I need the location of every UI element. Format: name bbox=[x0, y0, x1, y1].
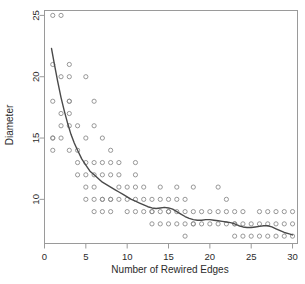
figure-background bbox=[0, 0, 305, 284]
y-tick-label-15: 15 bbox=[30, 133, 41, 144]
plot-canvas: 051015202530 10152025 Number of Rewired … bbox=[0, 0, 305, 284]
x-tick-label-5: 5 bbox=[83, 251, 88, 262]
y-tick-label-20: 20 bbox=[30, 71, 41, 82]
scatter-plot-figure: 051015202530 10152025 Number of Rewired … bbox=[0, 0, 305, 284]
x-tick-label-30: 30 bbox=[287, 251, 298, 262]
y-axis-title: Diameter bbox=[4, 104, 15, 145]
x-tick-label-10: 10 bbox=[122, 251, 133, 262]
x-tick-label-15: 15 bbox=[163, 251, 174, 262]
x-tick-label-20: 20 bbox=[205, 251, 216, 262]
x-tick-label-0: 0 bbox=[42, 251, 47, 262]
x-tick-label-25: 25 bbox=[246, 251, 257, 262]
y-tick-label-25: 25 bbox=[30, 10, 41, 21]
y-tick-label-10: 10 bbox=[30, 194, 41, 205]
x-axis-title: Number of Rewired Edges bbox=[111, 264, 228, 275]
